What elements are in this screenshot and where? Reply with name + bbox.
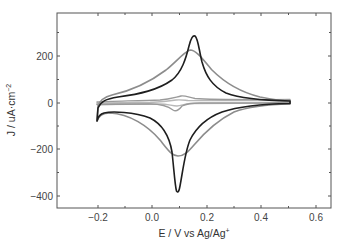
y-tick-label: −400 [30,191,53,202]
y-tick-label: 200 [36,51,53,62]
cv-curves [97,36,290,192]
x-tick-labels: −0.2 0.0 0.2 0.4 0.6 [88,212,323,223]
cv-chart: −0.2 0.0 0.2 0.4 0.6 200 0 −200 −400 E /… [0,0,342,247]
y-tick-labels: 200 0 −200 −400 [30,51,53,202]
cv-curve-large-black [97,36,290,192]
x-tick-label: 0.6 [309,212,323,223]
y-tick-label: 0 [47,98,53,109]
x-tick-label: 0.2 [200,212,214,223]
x-tick-label: 0.0 [145,212,159,223]
x-axis-label: E / V vs Ag/Ag+ [158,227,229,239]
y-axis-label: J / uA·cm−2 [5,84,17,136]
y-tick-label: −200 [30,144,53,155]
x-ticks [98,13,316,208]
x-tick-label: −0.2 [88,212,108,223]
x-tick-label: 0.4 [254,212,268,223]
